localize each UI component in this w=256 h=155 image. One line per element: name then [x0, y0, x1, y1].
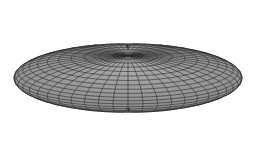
ellipsoid-figure	[0, 0, 256, 155]
wireframe-ellipsoid	[0, 0, 256, 155]
